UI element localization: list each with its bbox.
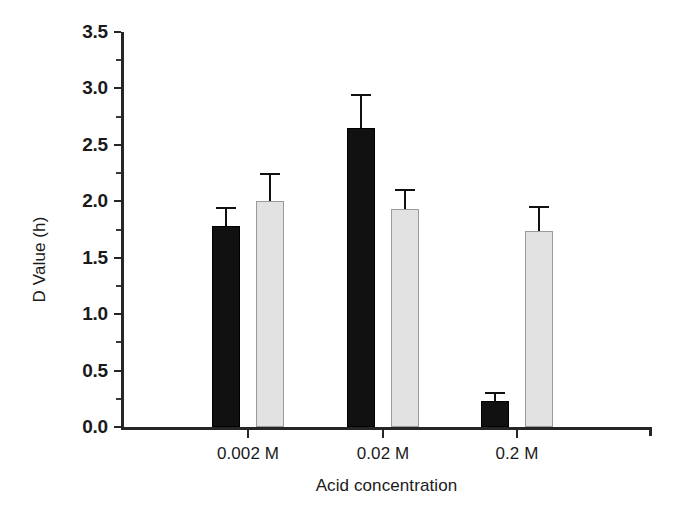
- y-tick-label: 3.0: [48, 77, 108, 99]
- x-axis-line: [121, 427, 652, 430]
- y-tick-label: 0.5: [48, 360, 108, 382]
- bar-chart-figure: D Value (h) 3.53.02.52.01.51.00.50.0 0.0…: [0, 0, 681, 519]
- y-tick-label: 0.0: [48, 416, 108, 438]
- bar-light-gray-series-0.02-M: [391, 209, 419, 427]
- y-tick-3.5: [114, 31, 121, 33]
- y-tick-label: 1.0: [48, 303, 108, 325]
- error-bar-cap: [395, 189, 415, 191]
- error-bar-whisker: [225, 207, 227, 226]
- y-tick-1.5: [114, 257, 121, 259]
- y-tick-2.5: [114, 144, 121, 146]
- y-tick-2.0: [114, 200, 121, 202]
- x-tick-label: 0.2 M: [437, 444, 597, 464]
- y-tick-label: 2.0: [48, 190, 108, 212]
- y-tick-3.0: [114, 87, 121, 89]
- y-tick-0.0: [114, 426, 121, 428]
- bar-light-gray-series-0.002-M: [256, 201, 284, 427]
- error-bar-cap: [351, 94, 371, 96]
- x-tick-mark: [382, 430, 384, 438]
- bar-black-series-0.02-M: [347, 128, 375, 427]
- error-bar-cap: [529, 206, 549, 208]
- x-tick-mark: [516, 430, 518, 438]
- y-tick-label: 2.5: [48, 134, 108, 156]
- y-tick-label: 3.5: [48, 21, 108, 43]
- bar-black-series-0.2-M: [481, 401, 509, 427]
- bar-black-series-0.002-M: [212, 226, 240, 427]
- y-tick-labels: 3.53.02.52.01.51.00.50.0: [48, 32, 108, 427]
- error-bar-whisker: [404, 189, 406, 209]
- error-bar-cap: [216, 207, 236, 209]
- y-tick-0.5: [114, 370, 121, 372]
- error-bar-whisker: [538, 206, 540, 231]
- x-axis-right-cap: [649, 427, 652, 436]
- error-bar-whisker: [269, 173, 271, 201]
- plot-area: 3.53.02.52.01.51.00.50.0 0.002 M0.02 M0.…: [121, 32, 652, 427]
- x-axis-title: Acid concentration: [121, 476, 652, 496]
- error-bar-cap: [260, 173, 280, 175]
- error-bar-cap: [485, 392, 505, 394]
- error-bar-whisker: [360, 94, 362, 128]
- y-tick-label: 1.5: [48, 247, 108, 269]
- bar-group-container: [121, 32, 652, 427]
- bar-light-gray-series-0.2-M: [525, 231, 553, 427]
- x-tick-mark: [247, 430, 249, 438]
- y-tick-1.0: [114, 313, 121, 315]
